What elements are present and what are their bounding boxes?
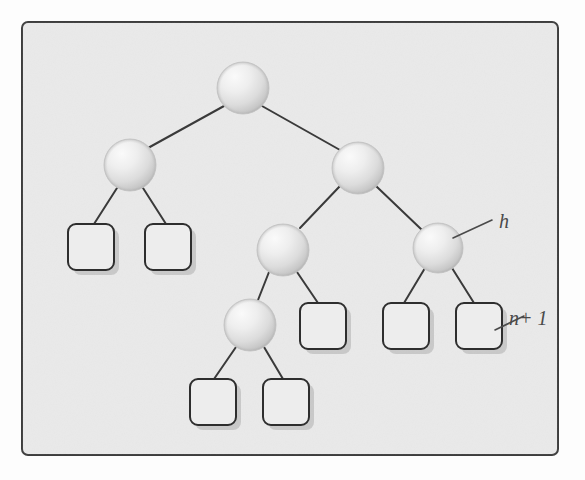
box-leaf-far-right-b[interactable] xyxy=(456,303,502,349)
sphere-node-far-right[interactable] xyxy=(413,223,463,273)
box-leaf-bottom-a[interactable] xyxy=(190,379,236,425)
box-leaf-left-b[interactable] xyxy=(145,224,191,270)
annotation-h-label: h xyxy=(499,210,509,232)
box-leaf-bottom-b[interactable] xyxy=(263,379,309,425)
box-leaf-left-a[interactable] xyxy=(68,224,114,270)
sphere-node-root[interactable] xyxy=(217,62,269,114)
tree-diagram: hn+ 1 xyxy=(0,0,585,480)
sphere-node-right[interactable] xyxy=(332,142,384,194)
box-leaf-far-right-a[interactable] xyxy=(383,303,429,349)
sphere-node-mid[interactable] xyxy=(257,224,309,276)
sphere-node-left[interactable] xyxy=(104,139,156,191)
diagram-canvas: hn+ 1 xyxy=(0,0,585,480)
sphere-node-bottom[interactable] xyxy=(224,299,276,351)
annotation-n-plus-1-label: n+ 1 xyxy=(509,307,548,329)
box-leaf-mid-right[interactable] xyxy=(300,303,346,349)
